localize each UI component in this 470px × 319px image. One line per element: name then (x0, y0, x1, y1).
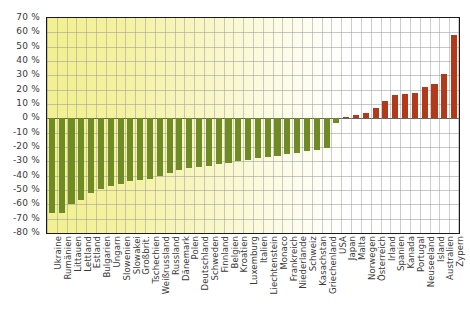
bar-bulgarien (98, 118, 104, 188)
bar-wei-russland (157, 118, 163, 175)
bar-ukraine (49, 118, 55, 213)
vertical-gridline (302, 18, 303, 233)
y-axis-tick-label: -30 % (13, 156, 40, 165)
x-axis-tick-label: Portugal (417, 236, 426, 272)
plot-inner (47, 18, 459, 233)
vertical-gridline (449, 18, 450, 233)
bar-slowakei (127, 118, 133, 181)
vertical-gridline (233, 18, 234, 233)
vertical-gridline (410, 18, 411, 233)
bar-frankreich (284, 118, 290, 154)
x-axis-tick-label: Monaco (280, 236, 289, 270)
bar-lettland (78, 118, 84, 200)
bar-d-nemark (176, 118, 182, 170)
vertical-gridline (381, 18, 382, 233)
x-axis-tick-label: Österreich (378, 236, 387, 281)
bar-island (431, 84, 437, 118)
vertical-gridline (439, 18, 440, 233)
vertical-gridline (125, 18, 126, 233)
bar-australien (441, 74, 447, 118)
bar-ungarn (108, 118, 114, 185)
bar-belgien (225, 118, 231, 162)
x-axis-tick-label: Deutschland (201, 236, 210, 290)
x-axis-tick-label: Spanien (397, 236, 406, 271)
vertical-gridline (194, 18, 195, 233)
x-axis-tick-label: Littauen (74, 236, 83, 272)
x-axis-tick-label: Schweden (211, 236, 220, 280)
x-axis-tick-label: Bulgarien (103, 236, 112, 278)
x-axis-tick-label: USA (339, 236, 348, 254)
x-axis-tick-label: Kasachstan (319, 236, 328, 286)
vertical-gridline (47, 18, 48, 233)
bar-schweden (206, 118, 212, 165)
bar-griechenland (324, 118, 330, 148)
y-axis-tick-label: 20 % (16, 84, 40, 93)
bar-rum-nien (59, 118, 65, 213)
x-axis-tick-label: Japan (348, 236, 357, 260)
x-axis-tick-label: Irland (388, 236, 397, 261)
x-axis-tick-label: Griechenland (329, 236, 338, 294)
x-axis-tick-label: Lettland (84, 236, 93, 272)
bar-luxemburg (245, 118, 251, 160)
x-axis-tick-label: Zypern (456, 236, 465, 267)
vertical-gridline (351, 18, 352, 233)
vertical-gridline (76, 18, 77, 233)
vertical-gridline (420, 18, 421, 233)
bar-schweiz (304, 118, 310, 151)
vertical-gridline (86, 18, 87, 233)
x-axis-tick-label: Schweiz (309, 236, 318, 271)
vertical-gridline (430, 18, 431, 233)
x-axis-tick-label: Tschechien (152, 236, 161, 284)
bar-italien (255, 118, 261, 158)
y-axis-tick-label: -70 % (13, 213, 40, 222)
x-axis-tick-label: Kroatien (240, 236, 249, 272)
vertical-gridline (400, 18, 401, 233)
x-axis-tick-label: Slowakei (133, 236, 142, 274)
bar-littauen (68, 118, 74, 204)
y-axis-tick-label: -50 % (13, 185, 40, 194)
y-axis-tick-label: 70 % (16, 13, 40, 22)
x-axis-tick-label: Belgien (231, 236, 240, 269)
vertical-gridline (390, 18, 391, 233)
x-axis-tick-label: Italien (260, 236, 269, 263)
bar-kroatien (235, 118, 241, 161)
x-axis-tick-label: Island (437, 236, 446, 262)
x-axis-tick-label: Finnland (221, 236, 230, 273)
bar--sterreich (373, 108, 379, 118)
bar-kanada (402, 94, 408, 118)
x-axis-tick-label: Slowenien (123, 236, 132, 280)
x-axis-tick-label: Kanada (407, 236, 416, 268)
x-axis-tick-label: Großbrit. (142, 236, 151, 275)
bar-gro-brit- (137, 118, 143, 180)
vertical-gridline (282, 18, 283, 233)
bar-spanien (392, 95, 398, 118)
y-axis-tick-label: -40 % (13, 170, 40, 179)
bar-zypern (451, 35, 457, 118)
y-axis-tick-label: -80 % (13, 228, 40, 237)
bar-neuseeland (422, 87, 428, 119)
vertical-gridline (253, 18, 254, 233)
x-axis-tick-label: Polen (191, 236, 200, 260)
bar-liechtenstein (265, 118, 271, 157)
x-axis-tick-label: Australien (446, 236, 455, 280)
bar-russland (167, 118, 173, 172)
x-axis: UkraineRumänienLittauenLettlandEstlandBu… (46, 236, 460, 319)
y-axis-tick-label: -60 % (13, 199, 40, 208)
y-axis-tick-label: -10 % (13, 127, 40, 136)
x-axis-tick-label: Norwegen (368, 236, 377, 280)
y-axis-tick-label: -20 % (13, 142, 40, 151)
x-axis-tick-label: Rumänien (64, 236, 73, 280)
bar-japan (343, 117, 349, 118)
vertical-gridline (371, 18, 372, 233)
y-axis-tick-label: 50 % (16, 41, 40, 50)
bar-kasachstan (314, 118, 320, 150)
y-axis: 70 %60 %50 %40 %30 %20 %10 %0 %-10 %-20 … (0, 0, 44, 235)
bar-chart: 70 %60 %50 %40 %30 %20 %10 %0 %-10 %-20 … (0, 0, 470, 319)
vertical-gridline (96, 18, 97, 233)
y-axis-tick-label: 0 % (22, 113, 40, 122)
bar-finnland (216, 118, 222, 164)
vertical-gridline (331, 18, 332, 233)
bar-norwegen (363, 113, 369, 119)
bar-usa (333, 118, 339, 122)
y-axis-tick-label: 10 % (16, 99, 40, 108)
